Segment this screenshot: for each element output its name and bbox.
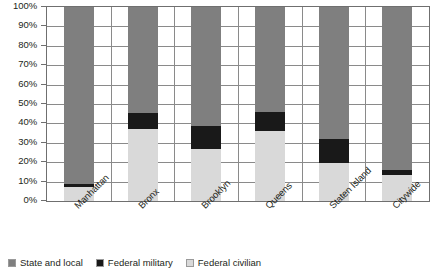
bar-segment bbox=[382, 170, 412, 175]
y-tick-label: 30% bbox=[18, 137, 37, 147]
bar-segment bbox=[64, 7, 94, 184]
y-tick-label: 10% bbox=[18, 176, 37, 186]
bar-group bbox=[191, 7, 221, 201]
bar-segment bbox=[191, 126, 221, 148]
y-tick-label: 50% bbox=[18, 98, 37, 108]
bar-group bbox=[255, 7, 285, 201]
bar-group bbox=[64, 7, 94, 201]
bar-segment bbox=[128, 7, 158, 113]
legend-label: Federal military bbox=[108, 258, 173, 268]
y-tick-label: 100% bbox=[13, 1, 37, 11]
y-tick-label: 80% bbox=[18, 40, 37, 50]
legend-swatch-icon bbox=[96, 259, 104, 267]
bar-segment bbox=[128, 113, 158, 129]
bar-segment bbox=[191, 7, 221, 126]
bar-segment bbox=[319, 7, 349, 139]
y-tick-label: 20% bbox=[18, 156, 37, 166]
legend-item: Federal civilian bbox=[186, 258, 261, 268]
stacked-bar bbox=[255, 7, 285, 201]
y-tick-label: 40% bbox=[18, 117, 37, 127]
stacked-bar bbox=[319, 7, 349, 201]
stacked-bar bbox=[128, 7, 158, 201]
stacked-bar bbox=[382, 7, 412, 201]
bar-group bbox=[128, 7, 158, 201]
legend-swatch-icon bbox=[186, 259, 194, 267]
legend-item: State and local bbox=[8, 258, 83, 268]
stacked-bar-chart: 100%90%80%70%60%50%40%30%20%10%0% Manhat… bbox=[0, 0, 446, 276]
x-axis-labels: ManhattanBronxBrooklynQueensStaten Islan… bbox=[46, 203, 430, 255]
stacked-bar bbox=[64, 7, 94, 201]
y-tick-label: 90% bbox=[18, 20, 37, 30]
legend-swatch-icon bbox=[8, 259, 16, 267]
y-tick-label: 0% bbox=[23, 195, 37, 205]
bar-segment bbox=[319, 139, 349, 163]
legend-item: Federal military bbox=[96, 258, 173, 268]
stacked-bar bbox=[191, 7, 221, 201]
bar-segment bbox=[255, 7, 285, 112]
y-tick-label: 60% bbox=[18, 79, 37, 89]
legend-label: Federal civilian bbox=[198, 258, 261, 268]
bar-segment bbox=[255, 112, 285, 131]
bar-group bbox=[319, 7, 349, 201]
y-axis: 100%90%80%70%60%50%40%30%20%10%0% bbox=[0, 0, 46, 208]
chart-legend: State and localFederal militaryFederal c… bbox=[8, 258, 261, 268]
y-tick-label: 70% bbox=[18, 59, 37, 69]
legend-label: State and local bbox=[20, 258, 83, 268]
bar-group bbox=[382, 7, 412, 201]
bar-segment bbox=[382, 7, 412, 170]
